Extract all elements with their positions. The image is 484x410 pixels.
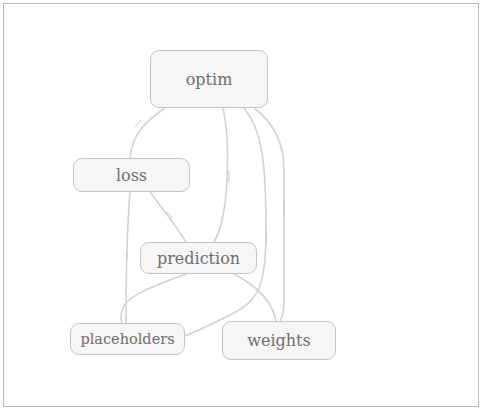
edge-prediction-weights xyxy=(234,274,276,321)
node-label: placeholders xyxy=(80,331,174,347)
edge-optim-loss xyxy=(130,108,165,158)
edge-prediction-placeholders xyxy=(121,274,186,323)
node-label: loss xyxy=(116,166,147,185)
node-optim[interactable]: optim xyxy=(150,50,268,108)
edge-optim-prediction xyxy=(214,108,227,242)
node-placeholders[interactable]: placeholders xyxy=(70,323,185,355)
node-prediction[interactable]: prediction xyxy=(140,242,257,274)
edge-optim-placeholders xyxy=(185,108,266,336)
edge-loss-prediction xyxy=(150,192,186,242)
node-weights[interactable]: weights xyxy=(222,321,336,360)
node-label: prediction xyxy=(157,249,240,268)
node-label: weights xyxy=(247,331,310,350)
node-label: optim xyxy=(186,70,233,89)
node-loss[interactable]: loss xyxy=(73,158,190,192)
